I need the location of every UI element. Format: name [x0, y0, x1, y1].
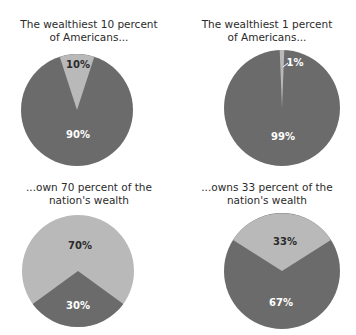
- chart-top10-population: The wealthiest 10 percent of Americans..…: [0, 0, 178, 168]
- slice-label: 10%: [66, 59, 90, 70]
- slice-label: 70%: [68, 240, 92, 251]
- chart-top1-population: The wealthiest 1 percent of Americans...…: [178, 0, 356, 168]
- pie-chart: 1% 99%: [178, 0, 356, 168]
- slice-label: 90%: [66, 129, 90, 140]
- pie-chart: 70% 30%: [0, 165, 178, 335]
- pie-chart: 33% 67%: [178, 165, 356, 335]
- slice-label: 1%: [287, 57, 304, 68]
- chart-top1-wealth: ...owns 33 percent of the nation's wealt…: [178, 165, 356, 335]
- slice-label: 30%: [66, 300, 90, 311]
- chart-top10-wealth: ...own 70 percent of the nation's wealth…: [0, 165, 178, 335]
- slice-label: 99%: [271, 131, 295, 142]
- pie-chart: 10% 90%: [0, 0, 178, 168]
- slice-label: 67%: [269, 297, 293, 308]
- slice-label: 33%: [273, 236, 297, 247]
